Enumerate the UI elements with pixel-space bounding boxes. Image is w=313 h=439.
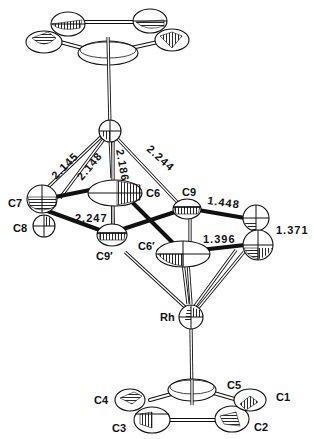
bond-distance-2247: 2.247 xyxy=(75,212,108,224)
atom-top-cp-d xyxy=(155,29,189,51)
atom-top-cp-b xyxy=(133,9,167,33)
bond-distance-1371: 1.371 xyxy=(276,224,309,236)
atom-top-cp-a xyxy=(51,12,85,36)
atom-C6 xyxy=(88,180,142,206)
bond-distance-2148: 2.148 xyxy=(74,150,104,183)
label-C4: C4 xyxy=(94,394,109,406)
bond-distance-1396: 1.396 xyxy=(203,233,236,245)
atom-C7 xyxy=(27,185,57,213)
bond-distance-2244: 2.244 xyxy=(145,143,177,174)
label-C6: C6 xyxy=(146,187,160,199)
bond-distance-2186: 2.186 xyxy=(114,148,131,182)
label-C9-prime: C9′ xyxy=(96,250,113,262)
bottom-cp-ring xyxy=(115,379,266,433)
label-C6-prime: C6′ xyxy=(138,240,155,252)
atom-C8 xyxy=(33,215,55,237)
label-Rh: Rh xyxy=(160,311,175,323)
label-C5: C5 xyxy=(227,379,241,391)
label-C8: C8 xyxy=(13,222,27,234)
label-C1: C1 xyxy=(276,391,290,403)
atom-C9-prime xyxy=(97,224,127,246)
label-C3: C3 xyxy=(112,422,126,434)
atom-top-cp-c xyxy=(26,31,62,53)
atom-Rh xyxy=(179,305,203,329)
label-C2: C2 xyxy=(254,421,268,433)
label-C9: C9 xyxy=(182,186,196,198)
atom-C9 xyxy=(173,199,201,219)
bond-distance-1448: 1.448 xyxy=(207,194,241,210)
atom-right-lower xyxy=(243,230,273,260)
label-C7: C7 xyxy=(8,197,22,209)
atom-right-upper xyxy=(243,205,269,231)
atom-C6-prime xyxy=(156,241,210,267)
atom-upper-metal xyxy=(99,120,121,142)
ortep-diagram: C7 C8 C6 C9 C9′ C6′ Rh C5 C1 C4 C3 C2 2.… xyxy=(0,0,313,439)
